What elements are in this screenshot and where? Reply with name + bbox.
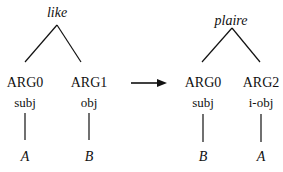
left-arg0-label: ARG0 bbox=[7, 76, 44, 90]
right-root-label: plaire bbox=[215, 14, 248, 28]
right-arg0-role: subj bbox=[192, 96, 214, 109]
right-arg0-leaf: B bbox=[199, 150, 208, 164]
edge-like-arg0 bbox=[25, 25, 57, 62]
right-arg2-label: ARG2 bbox=[243, 76, 280, 90]
left-root-label: like bbox=[47, 6, 67, 20]
right-arg2-role: i-obj bbox=[249, 96, 274, 109]
edge-plaire-arg2 bbox=[232, 28, 260, 62]
edge-plaire-arg0 bbox=[202, 28, 232, 62]
left-arg1-label: ARG1 bbox=[71, 76, 108, 90]
right-arg2-leaf: A bbox=[257, 150, 266, 164]
right-arg0-label: ARG0 bbox=[185, 76, 222, 90]
left-arg1-role: obj bbox=[81, 96, 98, 109]
arrow-icon bbox=[131, 79, 167, 87]
left-arg1-leaf: B bbox=[85, 150, 94, 164]
left-arg0-leaf: A bbox=[21, 150, 30, 164]
edge-like-arg1 bbox=[57, 25, 81, 62]
left-arg0-role: subj bbox=[14, 96, 36, 109]
